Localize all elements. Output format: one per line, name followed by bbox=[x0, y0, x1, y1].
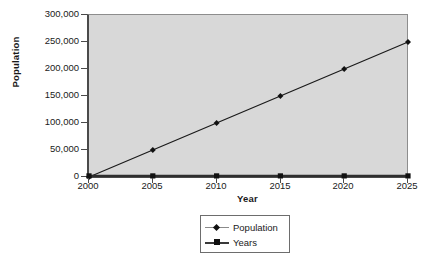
legend-label: Population bbox=[229, 222, 278, 233]
population-series-line bbox=[89, 42, 408, 177]
x-axis-title: Year bbox=[87, 193, 408, 204]
y-tick-label: 100,000 bbox=[17, 117, 79, 127]
y-axis-tick-group: 300,000 250,000 200,000 150,000 100,000 … bbox=[0, 0, 87, 178]
y-tick-label: 300,000 bbox=[17, 9, 79, 19]
legend-item-population: Population bbox=[201, 220, 289, 235]
y-tick-label: 250,000 bbox=[17, 36, 79, 46]
series-canvas bbox=[89, 15, 408, 177]
x-tick-label: 2010 bbox=[194, 180, 238, 191]
plot-inner bbox=[89, 15, 407, 176]
chart-legend: Population Years bbox=[200, 215, 290, 253]
y-tick-label: 150,000 bbox=[17, 90, 79, 100]
x-tick-label: 2020 bbox=[321, 180, 365, 191]
x-tick-label: 2015 bbox=[258, 180, 302, 191]
x-tick-label: 2005 bbox=[130, 180, 174, 191]
y-tick-label: 50,000 bbox=[17, 144, 79, 154]
x-tick-label: 2025 bbox=[385, 180, 425, 191]
x-tick-label: 2000 bbox=[66, 180, 110, 191]
line-chart: Population 300,000 250,000 200,000 150,0… bbox=[0, 0, 425, 261]
legend-label: Years bbox=[229, 237, 257, 248]
square-marker-icon bbox=[205, 237, 229, 249]
plot-area bbox=[87, 14, 408, 178]
diamond-marker-icon bbox=[205, 222, 229, 234]
legend-item-years: Years bbox=[201, 235, 289, 250]
y-tick-label: 200,000 bbox=[17, 63, 79, 73]
